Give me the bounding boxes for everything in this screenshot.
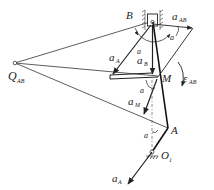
label-alpha-3: a (140, 86, 144, 95)
label-o1: O (161, 149, 169, 161)
label-a-a-upper-sub: A (115, 58, 120, 64)
label-alpha-2: a (170, 33, 174, 42)
label-a-ab: a (172, 10, 178, 22)
label-a-m-sub: M (134, 102, 141, 108)
label-a-a-upper: a (109, 51, 115, 63)
label-a-m: a (128, 95, 134, 107)
diagram-svg: B a AB Q AB a A a B M ε AB a M A O 1 a A… (0, 0, 214, 190)
acceleration-polygon (110, 73, 158, 79)
a-a-lower-vector (128, 152, 152, 184)
label-eps-ab: ε (183, 72, 188, 84)
label-a-b-sub: B (144, 61, 148, 67)
label-alpha-1: a (137, 47, 141, 56)
label-q-ab-sub: AB (16, 78, 25, 84)
label-alpha-4: a (144, 131, 148, 140)
label-a: A (170, 124, 178, 136)
label-eps-ab-sub: AB (188, 79, 197, 85)
label-o1-sub: 1 (169, 157, 172, 163)
label-a-a-lower-sub: A (117, 179, 122, 185)
label-b: B (126, 9, 133, 21)
label-m: M (161, 72, 172, 84)
acceleration-diagram: B a AB Q AB a A a B M ε AB a M A O 1 a A… (0, 0, 214, 190)
label-q-ab: Q (8, 69, 17, 83)
label-a-ab-sub: AB (178, 17, 187, 23)
q-ab-point (13, 61, 17, 65)
a-m-vector (144, 79, 157, 114)
